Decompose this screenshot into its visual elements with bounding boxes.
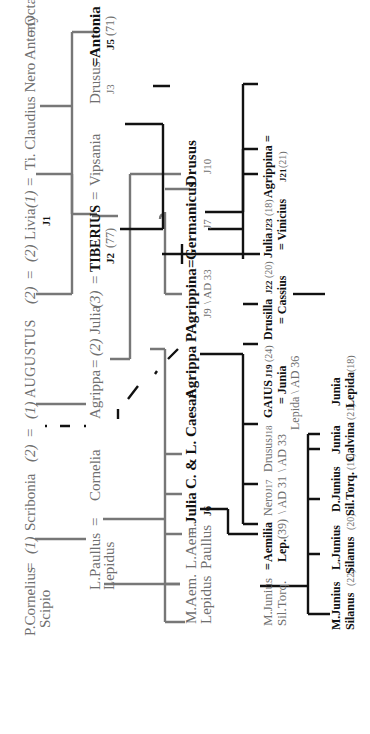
agrippina: Agrippina xyxy=(183,268,199,334)
marriage-order: (2) xyxy=(22,245,39,263)
tiberius-age: (77) xyxy=(103,228,117,248)
drusus-j18-death: \ AD 33 xyxy=(275,434,289,472)
agrippa: Agrippa xyxy=(87,370,103,419)
julia-j6: Julia xyxy=(183,492,199,524)
d-junius-sub: Sil.Torq. xyxy=(343,472,357,516)
gaius-spouse-sub: Lepida \ AD 36 xyxy=(288,356,302,430)
aemilia: Aemilia xyxy=(261,522,275,562)
agrippina-j21-age: (21) xyxy=(277,151,289,168)
marriage-order: (2) xyxy=(87,339,104,357)
gaius: GAIUS xyxy=(261,380,275,418)
antonia-age: (71) xyxy=(103,16,117,36)
drusilla-spouse: = Cassius xyxy=(275,275,289,324)
agrippina-j21: Agrippina xyxy=(261,145,275,198)
marriage-order: (2) xyxy=(22,287,39,305)
marriage-sign: = xyxy=(183,259,199,268)
marriage-sign: = xyxy=(22,429,38,437)
marriage-sign: = xyxy=(22,271,38,279)
sil-torq: Sil.Torq. xyxy=(274,581,289,626)
c-l-caesar: C. & L. Caesar xyxy=(183,392,199,489)
julia-j23-spouse: = Vinicius xyxy=(275,198,289,250)
julia: Julia xyxy=(87,305,103,334)
l-junius-silanus-sub: Silanus xyxy=(343,536,357,574)
marriage-order: (2) xyxy=(22,445,39,463)
drusus-j18: Drusus xyxy=(261,438,275,472)
m-aem-lepidus: Lepidus xyxy=(198,576,214,624)
marriage-order: (1) xyxy=(22,402,39,420)
nero-death: \ AD 31 xyxy=(275,476,289,514)
nero: Nero xyxy=(261,492,275,516)
ti-claudius-nero: Ti. Claudius Nero xyxy=(22,63,38,170)
marriage-sign: = xyxy=(22,29,38,37)
germanicus: Germanicus xyxy=(183,182,199,260)
junia-calvina: Junia xyxy=(329,425,343,454)
drusilla: Drusilla xyxy=(261,299,275,340)
livia: Livia xyxy=(22,208,38,240)
marriage-sign: = xyxy=(87,360,103,368)
drusus-j18-id: J18 xyxy=(264,425,274,438)
aemilia-lep: Lep. xyxy=(275,539,289,562)
cornelia: Cornelia xyxy=(87,449,103,501)
marriage-sign: = xyxy=(87,276,103,284)
drusus-j10-id: J10 xyxy=(201,158,213,174)
m-junius-silanus-sub: Silanus xyxy=(343,592,357,630)
vipsania: Vipsania xyxy=(87,133,103,186)
nero-id: J17 xyxy=(264,479,274,492)
m-aem: M.Aem. xyxy=(183,574,199,624)
octavia: Octavia xyxy=(22,0,38,26)
gaius-spouse: = Junia xyxy=(275,365,289,404)
marriage-sign: = xyxy=(22,563,38,571)
p-cornelius: P.Cornelius xyxy=(22,567,38,636)
aemilia-age: (39) xyxy=(275,519,289,539)
grey-lines xyxy=(35,32,190,622)
tiberius-id: J2 xyxy=(104,253,116,265)
marriage-sign: = xyxy=(261,135,275,142)
drusilla-id: J22 xyxy=(264,280,274,294)
junia-lepida-age: (18) xyxy=(345,355,357,372)
gaius-id: J19 xyxy=(264,364,274,378)
marriage-sign: = xyxy=(183,528,199,536)
drusilla-age: (20) xyxy=(263,261,275,278)
marriage-sign: = xyxy=(87,192,103,200)
antonia-id: J5 xyxy=(104,39,116,51)
paullus: Paullus xyxy=(198,525,214,569)
l-junius-silanus: L.Junius xyxy=(329,525,343,570)
marriage-sign: = xyxy=(87,518,103,526)
d-junius: D.Junius xyxy=(329,466,343,512)
junia-calvina-sub: Calvina xyxy=(343,422,357,462)
row-5: M.Junius Silanus (22) L.Junius Silanus (… xyxy=(329,355,357,630)
marriage-order: (1) xyxy=(22,191,39,209)
agrippina-id: J9 xyxy=(201,308,213,318)
junia-lepida-sub: Lepida xyxy=(343,372,357,408)
row-4: M.Junius Sil.Torq. = Aemilia Lep. (39) N… xyxy=(260,135,302,626)
agrippa-p: Agrippa P. xyxy=(183,330,199,399)
lepidus: Lepidus xyxy=(101,542,117,590)
julia-j23: Julia xyxy=(261,233,275,258)
marriage-sign: = xyxy=(261,563,275,570)
julia-j23-id: J23 xyxy=(264,218,274,232)
marriage-order: (1) xyxy=(22,537,39,555)
row-1: P.Cornelius Scipio = (1) Scribonia (2) =… xyxy=(22,0,53,636)
julia-j6-id: J6 xyxy=(202,506,213,516)
row-2-continued: L. Domitius Ah. xyxy=(87,16,103,114)
agrippina-j21-id: J21 xyxy=(278,168,288,182)
livia-id: J1 xyxy=(41,216,52,226)
gaius-age: (24) xyxy=(263,345,275,362)
scipio: Scipio xyxy=(37,590,53,628)
family-tree-diagram: P.Cornelius Scipio = (1) Scribonia (2) =… xyxy=(0,0,370,734)
marriage-order: (3) xyxy=(87,291,104,309)
scribonia: Scribonia xyxy=(22,473,38,531)
marriage-sign: = xyxy=(22,178,38,186)
m-junius: M.Junius xyxy=(260,578,275,626)
drusus-id: J3 xyxy=(104,84,116,94)
augustus: AUGUSTUS xyxy=(23,319,38,398)
m-junius-silanus: M.Junius xyxy=(329,581,343,630)
drusus-j10: Drusus xyxy=(183,140,199,186)
tiberius: TIBERIUS xyxy=(88,205,103,272)
julia-j23-age: (18) xyxy=(263,199,275,216)
agrippina-death: \ AD 33 xyxy=(201,269,213,304)
germanicus-id: J7 xyxy=(201,219,213,229)
junia-lepida: Junia xyxy=(329,377,343,406)
